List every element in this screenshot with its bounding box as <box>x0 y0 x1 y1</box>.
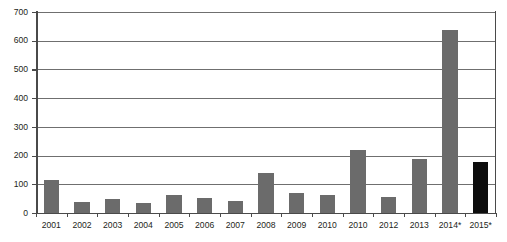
x-label-2009: 2009 <box>281 221 312 230</box>
x-tick-10 <box>343 213 344 217</box>
y-label-400: 400 <box>2 94 28 103</box>
bar-2008 <box>258 173 274 213</box>
x-label-2002: 2002 <box>67 221 98 230</box>
bar-2010 <box>350 150 366 213</box>
bar-chart: 0100200300400500600700 20012002200320042… <box>0 0 507 242</box>
y-label-600: 600 <box>2 36 28 45</box>
y-label-300: 300 <box>2 123 28 132</box>
y-tick-500 <box>32 69 36 70</box>
bar-2007 <box>228 201 244 213</box>
x-tick-12 <box>404 213 405 217</box>
bar-2002 <box>74 202 90 214</box>
gridline-200 <box>36 156 496 157</box>
x-tick-4 <box>159 213 160 217</box>
x-label-2014star: 2014* <box>435 221 466 230</box>
gridline-300 <box>36 127 496 128</box>
y-label-700: 700 <box>2 8 28 17</box>
gridline-400 <box>36 98 496 99</box>
x-label-2007: 2007 <box>220 221 251 230</box>
x-axis-line <box>36 213 497 215</box>
x-tick-11 <box>373 213 374 217</box>
bar-2003 <box>105 199 121 213</box>
y-label-200: 200 <box>2 151 28 160</box>
y-label-500: 500 <box>2 65 28 74</box>
bar-2005 <box>166 195 182 213</box>
y-tick-300 <box>32 127 36 128</box>
y-axis-line <box>36 11 38 214</box>
x-label-2001: 2001 <box>36 221 67 230</box>
gridline-600 <box>36 41 496 42</box>
x-label-2012: 2012 <box>373 221 404 230</box>
x-tick-0 <box>36 213 37 217</box>
bar-2014star <box>442 30 458 213</box>
bar-2006 <box>197 198 213 213</box>
bar-2004 <box>136 203 152 213</box>
x-tick-8 <box>281 213 282 217</box>
x-tick-2 <box>97 213 98 217</box>
y-tick-100 <box>32 184 36 185</box>
bar-2010 <box>320 195 336 213</box>
x-tick-3 <box>128 213 129 217</box>
x-tick-5 <box>189 213 190 217</box>
y-label-0: 0 <box>2 209 28 218</box>
bar-2001 <box>44 180 60 213</box>
x-tick-1 <box>67 213 68 217</box>
bar-2009 <box>289 193 305 213</box>
x-tick-13 <box>435 213 436 217</box>
plot-right-border <box>495 11 496 214</box>
y-label-100: 100 <box>2 180 28 189</box>
x-label-2008: 2008 <box>251 221 282 230</box>
bar-2012 <box>381 197 397 213</box>
x-label-2010: 2010 <box>343 221 374 230</box>
x-tick-end <box>496 213 497 217</box>
x-label-2013: 2013 <box>404 221 435 230</box>
bar-2015star <box>473 162 489 213</box>
y-tick-600 <box>32 41 36 42</box>
y-tick-200 <box>32 156 36 157</box>
x-label-2006: 2006 <box>189 221 220 230</box>
x-tick-14 <box>465 213 466 217</box>
plot-area <box>36 12 496 213</box>
x-label-2005: 2005 <box>159 221 190 230</box>
x-label-2004: 2004 <box>128 221 159 230</box>
gridline-700 <box>36 12 496 13</box>
x-label-2003: 2003 <box>97 221 128 230</box>
gridline-500 <box>36 69 496 70</box>
bar-2013 <box>412 159 428 213</box>
x-label-2015star: 2015* <box>465 221 496 230</box>
x-tick-7 <box>251 213 252 217</box>
x-label-2010: 2010 <box>312 221 343 230</box>
y-tick-700 <box>32 12 36 13</box>
y-tick-400 <box>32 98 36 99</box>
x-tick-6 <box>220 213 221 217</box>
x-tick-9 <box>312 213 313 217</box>
